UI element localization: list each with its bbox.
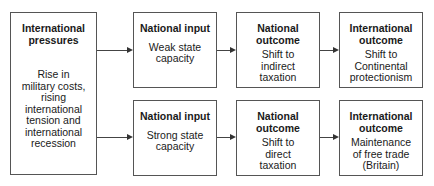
international-outcome-protectionism-box: International outcome Shift to Continent… bbox=[339, 12, 423, 88]
international-outcome-body-line: (Britain) bbox=[340, 160, 422, 172]
connector-line bbox=[217, 137, 230, 138]
national-outcome-title-line: National bbox=[237, 111, 319, 123]
national-input-body-line: capacity bbox=[134, 141, 216, 153]
connector-line bbox=[217, 50, 230, 51]
international-pressures-box: International pressures Rise in military… bbox=[10, 12, 97, 175]
connector-line bbox=[97, 137, 127, 138]
national-outcome-title-line: outcome bbox=[237, 123, 319, 135]
international-outcome-body-line: Shift to bbox=[340, 49, 422, 61]
national-outcome-body-line: Shift to bbox=[237, 49, 319, 61]
connector-line bbox=[320, 50, 333, 51]
national-input-weak-box: National input Weak state capacity bbox=[133, 12, 217, 88]
connector-line bbox=[320, 137, 333, 138]
international-outcome-title-line: outcome bbox=[340, 123, 422, 135]
national-outcome-title-line: National bbox=[237, 23, 319, 35]
international-outcome-body-line: protectionism bbox=[340, 72, 422, 84]
national-outcome-body-line: taxation bbox=[237, 72, 319, 84]
national-outcome-indirect-box: National outcome Shift to indirect taxat… bbox=[236, 12, 320, 88]
national-outcome-body-line: taxation bbox=[237, 160, 319, 172]
national-outcome-title-line: outcome bbox=[237, 35, 319, 47]
pressures-body-line: tension and bbox=[11, 115, 96, 127]
national-input-body-line: capacity bbox=[134, 53, 216, 65]
national-outcome-direct-box: National outcome Shift to direct taxatio… bbox=[236, 100, 320, 176]
international-outcome-title-line: International bbox=[340, 111, 422, 123]
international-outcome-title-line: outcome bbox=[340, 35, 422, 47]
pressures-body-line: recession bbox=[11, 138, 96, 150]
international-pressures-title-line2: pressures bbox=[11, 35, 96, 47]
national-outcome-body-line: Shift to bbox=[237, 137, 319, 149]
international-outcome-title-line: International bbox=[340, 23, 422, 35]
national-input-title: National input bbox=[134, 23, 216, 35]
national-input-strong-box: National input Strong state capacity bbox=[133, 100, 217, 176]
international-outcome-free-trade-box: International outcome Maintenance of fre… bbox=[339, 100, 423, 176]
connector-line bbox=[97, 50, 127, 51]
pressures-body-line: rising bbox=[11, 92, 96, 104]
national-input-title: National input bbox=[134, 111, 216, 123]
pressures-body-line: Rise in bbox=[11, 69, 96, 81]
international-outcome-body-line: Maintenance bbox=[340, 137, 422, 149]
international-pressures-title-line1: International bbox=[11, 23, 96, 35]
